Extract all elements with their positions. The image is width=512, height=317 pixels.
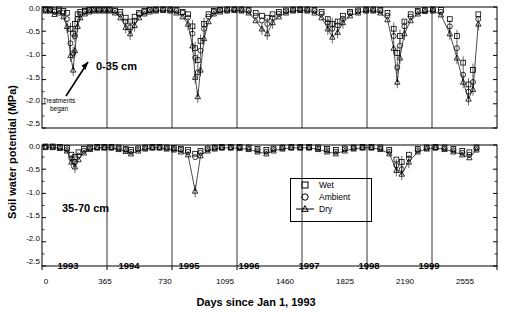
plot-canvas (0, 0, 512, 317)
chart-root: Soil water potential (MPa) Days since Ja… (0, 0, 512, 317)
